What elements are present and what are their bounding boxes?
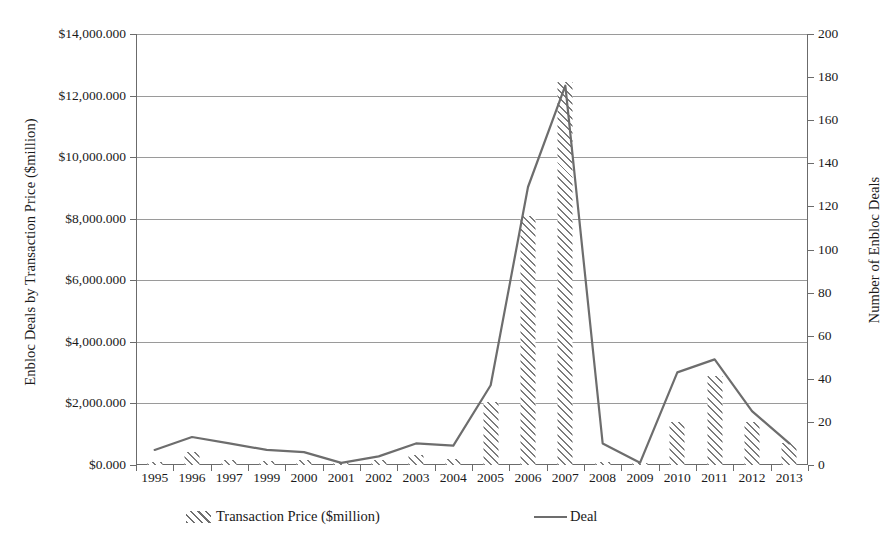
legend-item-deal: Deal [534,508,597,525]
left-axis-tick-label: $12,000.000 [59,89,127,103]
right-axis-tickmark [808,120,814,121]
right-axis-tickmark [808,379,814,380]
right-axis-tickmark [808,163,814,164]
legend-label-deal: Deal [570,508,597,525]
right-axis-tickmark [808,250,814,251]
right-axis-tick-label: 80 [818,286,832,300]
x-axis-tick-label: 1999 [248,471,285,493]
x-axis-tick-label: 2012 [733,471,770,493]
left-axis-tick-labels: $0.000$2,000.000$4,000.000$6,000.000$8,0… [28,0,126,557]
right-axis-tick-label: 60 [818,329,832,343]
x-axis-tick-label: 2002 [360,471,397,493]
legend-item-transaction-price: Transaction Price ($million) [186,508,380,525]
line-series-deal [136,34,808,465]
right-axis-tickmark [808,336,814,337]
left-axis-tick-label: $4,000.000 [65,335,126,349]
left-axis-tick-label: $8,000.000 [65,212,126,226]
chart-legend: Transaction Price ($million) Deal [136,505,808,535]
x-axis-tick-label: 2010 [659,471,696,493]
right-axis-tick-label: 200 [818,27,838,41]
right-axis-tick-labels: 020406080100120140160180200 [818,0,878,557]
x-axis-tick-label: 2009 [621,471,658,493]
right-axis-tick-label: 160 [818,113,838,127]
right-axis-tick-label: 100 [818,243,838,257]
x-axis-tick-label: 2005 [472,471,509,493]
x-axis-tick-label: 2006 [509,471,546,493]
left-axis-tick-label: $6,000.000 [65,274,126,288]
left-axis-tick-label: $10,000.000 [59,150,127,164]
left-axis-tick-label: $2,000.000 [65,397,126,411]
right-axis-tick-label: 120 [818,200,838,214]
x-axis-tick-label: 2007 [547,471,584,493]
plot-area [136,34,808,465]
left-axis-tick-label: $14,000.000 [59,27,127,41]
right-axis-tick-label: 140 [818,157,838,171]
hatch-swatch-icon [186,511,211,523]
x-axis-tick-label: 2011 [696,471,733,493]
right-axis-tickmark [808,77,814,78]
right-axis-tickmark [808,206,814,207]
x-axis-tick-label: 2001 [323,471,360,493]
right-axis-tickmark [808,422,814,423]
x-axis-tick-label: 2003 [397,471,434,493]
right-axis-tickmarks [808,34,814,465]
x-axis-tick-label: 2008 [584,471,621,493]
right-axis-tick-label: 20 [818,415,832,429]
right-axis-tickmark [808,293,814,294]
x-axis-tick-label: 2013 [771,471,808,493]
x-axis-tick-labels: 1995199619971999200020012002200320042005… [136,471,808,493]
right-axis-tick-label: 40 [818,372,832,386]
line-swatch-icon [534,511,567,523]
x-axis-tickmark [808,465,809,471]
right-axis-tick-label: 180 [818,70,838,84]
x-axis-tick-label: 2004 [435,471,472,493]
legend-label-transaction-price: Transaction Price ($million) [216,508,380,525]
x-axis-tick-label: 1995 [136,471,173,493]
x-axis-tick-label: 1996 [173,471,210,493]
x-axis-tick-label: 2000 [285,471,322,493]
right-axis-tickmark [808,34,814,35]
chart-figure: Enbloc Deals by Transaction Price ($mill… [0,0,893,557]
x-axis-tick-label: 1997 [211,471,248,493]
left-axis-tick-label: $0.000 [89,458,126,472]
right-axis-tick-label: 0 [818,458,825,472]
deal-line-path [155,86,790,463]
